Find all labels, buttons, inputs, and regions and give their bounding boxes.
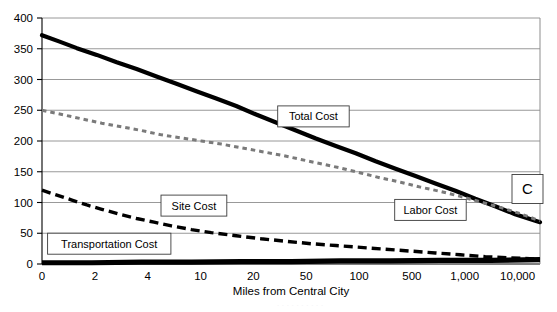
y-tick-label-150: 150 — [14, 166, 33, 178]
x-tick-label-20: 20 — [247, 270, 260, 282]
callout-c: C — [512, 175, 543, 204]
cost-gradient-chart-figure: 050100150200250300350400 024102050100500… — [0, 0, 557, 312]
callout-text: Site Cost — [172, 200, 217, 212]
y-tick-label-100: 100 — [14, 197, 33, 209]
x-tick-label-2: 2 — [92, 270, 98, 282]
chart-canvas: 050100150200250300350400 024102050100500… — [0, 0, 557, 312]
callout-text: C — [522, 180, 533, 197]
x-tick-label-0: 0 — [39, 270, 45, 282]
callout-text: Total Cost — [289, 110, 338, 122]
y-tick-label-50: 50 — [20, 227, 33, 239]
callout-total-cost: Total Cost — [278, 106, 350, 127]
y-tick-label-350: 350 — [14, 43, 33, 55]
series-line-transportation-cost — [42, 260, 540, 263]
y-tick-label-300: 300 — [14, 74, 33, 86]
y-tick-label-200: 200 — [14, 135, 33, 147]
x-tick-label-10: 10 — [194, 270, 207, 282]
y-tick-label-250: 250 — [14, 104, 33, 116]
x-axis-title: Miles from Central City — [233, 285, 350, 297]
x-tick-label-500: 500 — [402, 270, 421, 282]
callout-text: Labor Cost — [403, 204, 457, 216]
x-tick-label-100: 100 — [349, 270, 368, 282]
x-tick-label-10000: 10,000 — [500, 270, 535, 282]
callout-site-cost: Site Cost — [161, 195, 227, 216]
callout-text: Transportation Cost — [61, 238, 157, 250]
x-tick-label-4: 4 — [144, 270, 151, 282]
x-tick-label-50: 50 — [300, 270, 313, 282]
y-tick-label-0: 0 — [27, 258, 33, 270]
page-bleed-artifact: · · · · · · · · · · — [277, 301, 324, 310]
callout-transportation-cost: Transportation Cost — [48, 233, 171, 254]
callout-labor-cost: Labor Cost — [395, 199, 467, 220]
x-tick-label-1000: 1,000 — [450, 270, 479, 282]
y-tick-label-400: 400 — [14, 12, 33, 24]
